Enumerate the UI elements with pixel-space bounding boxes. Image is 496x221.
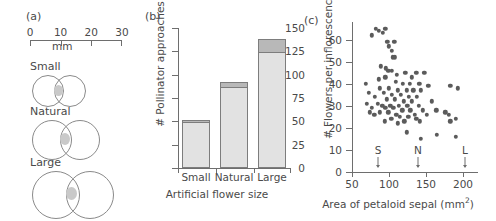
x-tick-label: 50 [345,178,358,190]
flower-model-label: Natural [30,105,71,118]
scatter-point [430,99,434,103]
panel-a: (a) 0 10 20 30 mm Small Natural [0,0,150,221]
scatter-point [387,86,391,90]
scatter-point [418,119,422,123]
flower-model-label: Small [30,60,61,73]
scatter-point [405,130,409,134]
scale-tick-label: 20 [85,26,98,38]
flower-model-shape [32,171,124,217]
bar-chart-y-axis-title: # Pollinator approaches [154,0,166,139]
scatter-point [435,132,439,136]
scatter-point [393,97,397,101]
flower-model-large: Large [30,156,150,216]
scatter-point [434,108,438,112]
scatter-point [393,55,397,59]
scatter-point [382,119,386,123]
scatter-point [419,137,423,141]
scatter-point [376,77,380,81]
bar-chart-plot-area [178,28,290,168]
marker-label: N [414,144,422,156]
scatter-point [453,117,457,121]
scatter-point [416,104,420,108]
scatter-point [367,90,371,94]
scatter-point [395,73,399,77]
panel-b: (b) 0 25 50 75 100 125 150 Small Natural… [145,0,305,221]
scale-bar-group: 0 10 20 30 [30,26,122,49]
x-tick [352,172,353,177]
x-tick-label: 150 [416,178,436,190]
flower-center [60,133,70,145]
scatter-point [401,82,405,86]
scatter-point [373,95,377,99]
scatter-point [393,79,397,83]
scatter-point [410,75,414,79]
x-tick [389,172,390,177]
scatter-point [411,88,415,92]
scatter-point [379,64,383,68]
scatter-point [419,88,423,92]
x-tick [463,172,464,177]
scatter-point [417,82,421,86]
marker-arrow-head-icon [463,165,467,168]
marker-label: L [462,144,468,156]
panel-c-label: (c) [304,14,319,27]
x-tick-label-small: Small [181,171,210,183]
x-tick-label-large: Large [257,171,287,183]
scatter-point [403,71,407,75]
scatter-point [406,115,410,119]
scatter-point [424,112,428,116]
x-tick [178,168,179,173]
bar-chart-x-axis [178,168,290,169]
scatter-point [389,117,393,121]
scatter-point [378,110,382,114]
scatter-point [400,108,404,112]
scatter-point [381,31,385,35]
bar-cap-small [183,121,209,124]
bar-small [182,120,210,169]
scatter-point [456,86,460,90]
scatter-point [415,95,419,99]
scatter-point [386,110,390,114]
scatter-y-axis-title: # Flowers per inflorescence [322,0,334,146]
scale-tick [121,40,122,46]
scatter-point [398,115,402,119]
scatter-plot-points [352,22,474,172]
scatter-point [407,82,411,86]
scale-tick-label: 10 [54,26,67,38]
scale-tick-labels: 0 10 20 30 [30,26,122,39]
scale-tick [91,40,92,46]
scatter-x-axis [352,172,478,173]
bar-cap-natural [221,83,247,88]
scale-unit-label: mm [52,40,72,52]
scatter-point [405,88,409,92]
flower-center [54,85,63,96]
scatter-point [408,108,412,112]
bar-natural [220,82,248,168]
scatter-point [399,93,403,97]
panel-a-label: (a) [26,10,41,23]
panel-c: (c) 0 10 20 30 40 50 60 50 100 150 200 S… [300,0,496,221]
scatter-point [392,40,396,44]
x-tick [426,172,427,177]
scatter-point [365,101,369,105]
bar-chart-x-axis-title: Artificial flower size [137,188,297,200]
x-tick [290,168,291,173]
scatter-point [426,84,430,88]
y-tick-label: 0 [318,166,342,178]
scale-ruler [30,40,122,49]
bar-large [258,39,286,168]
scatter-point [372,112,376,116]
flower-model-small: Small [30,60,140,104]
scatter-point [447,112,451,116]
scatter-point [390,48,394,52]
scale-tick-label: 0 [27,26,34,38]
flower-model-natural: Natural [30,105,140,157]
scatter-point [391,106,395,110]
scatter-point [383,75,387,79]
x-tick [254,168,255,173]
scatter-point [422,71,426,75]
marker-arrow-head-icon [416,165,420,168]
bar-cap-large [259,40,285,53]
flower-center [66,187,77,200]
scatter-point [382,90,386,94]
